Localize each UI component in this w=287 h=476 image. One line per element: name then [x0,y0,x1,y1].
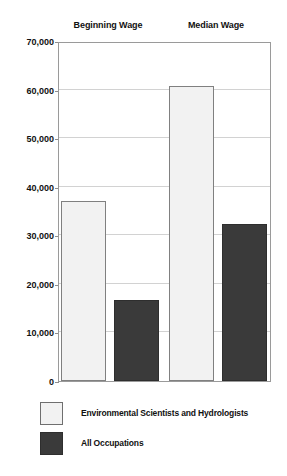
y-axis-tick-mark [55,382,59,383]
gridline [59,89,270,90]
y-axis-tick-label: 20,000 [0,280,54,290]
bar [61,201,106,381]
plot-area [58,42,271,382]
bar [114,300,159,381]
y-axis-tick-label: 30,000 [0,231,54,241]
y-axis-tick-label: 50,000 [0,134,54,144]
y-axis-tick-label: 60,000 [0,86,54,96]
gridline [59,186,270,187]
gridline [59,137,270,138]
bar [222,224,267,381]
group-header-beginning-wage: Beginning Wage [58,20,158,30]
y-axis-tick-label: 10,000 [0,328,54,338]
y-axis-tick-label: 0 [0,377,54,387]
legend-label: Environmental Scientists and Hydrologist… [81,408,248,418]
y-axis-tick-label: 70,000 [0,37,54,47]
y-axis-tick-label: 40,000 [0,183,54,193]
bar [169,86,214,381]
legend-label: All Occupations [81,438,143,448]
group-header-median-wage: Median Wage [166,20,266,30]
bar-chart: Beginning Wage Median Wage 70,00060,0005… [0,0,287,476]
legend-swatch-dark [40,432,63,455]
legend-swatch-light [40,402,63,425]
